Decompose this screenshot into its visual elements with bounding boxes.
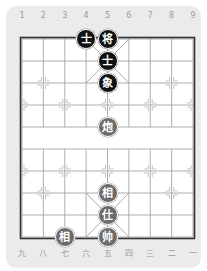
piece-glyph: 仕: [102, 210, 113, 221]
piece-glyph: 将: [102, 34, 113, 45]
piece-glyph: 士: [102, 56, 113, 67]
black-advisor-piece[interactable]: 士: [76, 29, 96, 49]
piece-glyph: 象: [102, 78, 113, 89]
black-general-piece[interactable]: 将: [98, 29, 118, 49]
piece-glyph: 相: [59, 232, 70, 243]
piece-glyph: 帅: [102, 232, 113, 243]
piece-glyph: 士: [81, 34, 92, 45]
red-elephant-piece[interactable]: 相: [55, 227, 75, 247]
piece-glyph: 炮: [102, 122, 113, 133]
black-elephant-piece[interactable]: 象: [98, 73, 118, 93]
red-advisor-piece[interactable]: 仕: [98, 205, 118, 225]
red-general-piece[interactable]: 帅: [98, 227, 118, 247]
red-cannon-piece[interactable]: 炮: [98, 117, 118, 137]
piece-glyph: 相: [102, 188, 113, 199]
black-advisor-piece[interactable]: 士: [98, 51, 118, 71]
red-elephant-piece[interactable]: 相: [98, 183, 118, 203]
